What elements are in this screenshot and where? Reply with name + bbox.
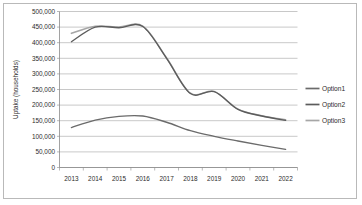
x-tick-label: 2014 (88, 175, 103, 182)
y-tick-label: 50,000 (35, 148, 55, 155)
x-tick-label: 2021 (255, 175, 270, 182)
x-tick-label: 2020 (231, 175, 246, 182)
legend-label-option1[interactable]: Option1 (322, 85, 345, 93)
x-tick-labels-group: 2013201420152016201720182019202020212022 (64, 175, 293, 182)
x-tickmarks-group (60, 168, 298, 171)
x-tick-label: 2022 (278, 175, 293, 182)
x-tick-label: 2015 (112, 175, 127, 182)
y-tick-label: 500,000 (32, 8, 56, 15)
y-tick-label: 0 (51, 164, 55, 171)
gridlines-group (57, 12, 298, 168)
y-tick-label: 300,000 (32, 70, 56, 77)
y-axis-title: Uptake (households) (12, 60, 20, 119)
y-tick-label: 250,000 (32, 86, 56, 93)
legend-label-option2[interactable]: Option2 (322, 101, 345, 109)
x-tick-label: 2017 (159, 175, 174, 182)
y-axis-title-group: Uptake (households) (12, 60, 20, 119)
x-tick-label: 2016 (136, 175, 151, 182)
y-tick-label: 200,000 (32, 101, 56, 108)
x-tick-label: 2019 (207, 175, 222, 182)
y-tick-label: 400,000 (32, 39, 56, 46)
y-tick-label: 450,000 (32, 23, 56, 30)
x-tick-label: 2013 (64, 175, 79, 182)
y-tick-labels-group: 050,000100,000150,000200,000250,000300,0… (32, 8, 56, 171)
y-tick-label: 150,000 (32, 117, 56, 124)
chart-figure: 050,000100,000150,000200,000250,000300,0… (0, 0, 362, 205)
legend: Option1Option2Option3 (306, 85, 346, 125)
y-tick-label: 100,000 (32, 133, 56, 140)
legend-label-option3[interactable]: Option3 (322, 117, 345, 125)
x-tick-label: 2018 (183, 175, 198, 182)
line-chart: 050,000100,000150,000200,000250,000300,0… (0, 0, 362, 205)
series-line-option2 (71, 24, 285, 120)
series-line-option3 (71, 24, 285, 120)
y-tick-label: 350,000 (32, 55, 56, 62)
